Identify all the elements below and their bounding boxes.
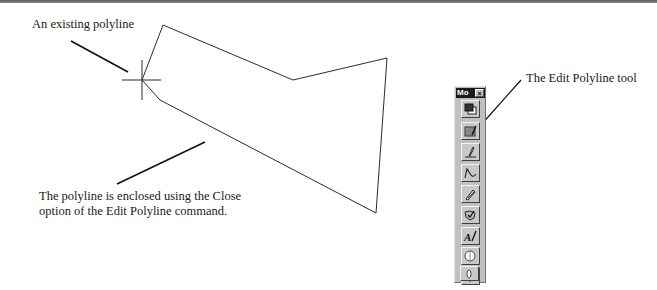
edit-text-button[interactable]: A	[461, 227, 480, 245]
toolbar-title: Mo	[457, 88, 469, 98]
draw-order-button[interactable]	[461, 100, 480, 118]
polyline-edit-icon	[463, 145, 478, 159]
multiline-edit-icon	[463, 187, 478, 201]
edit-multiline-button[interactable]	[461, 185, 480, 203]
stacked-squares-icon	[463, 102, 478, 116]
union-button[interactable]	[461, 247, 480, 265]
leader-existing-polyline	[71, 41, 128, 72]
polyline-shape	[142, 25, 387, 213]
edit-attribute-button[interactable]	[461, 206, 480, 224]
edit-polyline-button[interactable]	[461, 143, 480, 161]
callout-enclosed-line1: The polyline is enclosed using the Close	[39, 188, 241, 204]
attribute-edit-icon	[463, 208, 478, 222]
text-edit-icon: A	[463, 229, 478, 243]
drawing-canvas	[0, 0, 657, 290]
intersect-button[interactable]	[460, 266, 479, 281]
union-icon	[463, 249, 478, 263]
svg-text:A: A	[463, 231, 471, 243]
callout-existing-polyline: An existing polyline	[32, 16, 134, 32]
edit-hatch-button[interactable]	[461, 122, 480, 140]
spline-edit-icon	[463, 166, 478, 180]
hatch-edit-icon	[463, 124, 478, 138]
leader-edit-polyline-tool	[480, 80, 521, 126]
callout-edit-polyline-tool: The Edit Polyline tool	[526, 70, 637, 86]
modify-toolbar[interactable]: Mo ×	[454, 86, 486, 283]
leader-enclosed-polyline	[117, 142, 205, 184]
toolbar-close-button[interactable]: ×	[475, 89, 484, 97]
edit-spline-button[interactable]	[461, 164, 480, 182]
intersect-icon	[462, 268, 477, 280]
callout-enclosed-line2: option of the Edit Polyline command.	[39, 203, 227, 219]
toolbar-titlebar[interactable]: Mo ×	[456, 88, 485, 98]
